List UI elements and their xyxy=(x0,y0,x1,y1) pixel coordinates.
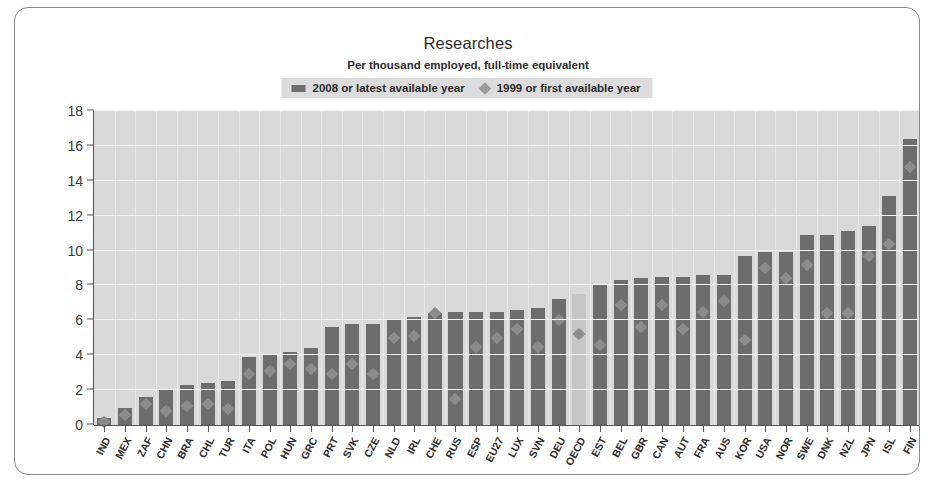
bar-nld[interactable] xyxy=(387,320,401,425)
bar-prt[interactable] xyxy=(325,327,339,425)
x-label-wrap: JPN xyxy=(858,432,879,475)
bar-jpn[interactable] xyxy=(862,226,876,425)
x-axis-label-text: PRT xyxy=(320,435,340,459)
diamond-marker-aut[interactable] xyxy=(676,323,689,336)
diamond-marker-kor[interactable] xyxy=(738,333,751,346)
bar-slot xyxy=(734,111,755,425)
bar-deu[interactable] xyxy=(552,299,566,425)
bar-oecd[interactable] xyxy=(572,294,586,425)
bar-swe[interactable] xyxy=(800,235,814,425)
bar-lux[interactable] xyxy=(510,310,524,425)
diamond-marker-nor[interactable] xyxy=(780,272,793,285)
diamond-marker-bel[interactable] xyxy=(614,298,627,311)
diamond-marker-jpn[interactable] xyxy=(862,249,875,262)
bar-usa[interactable] xyxy=(758,252,772,425)
diamond-marker-pol[interactable] xyxy=(263,365,276,378)
bar-fra[interactable] xyxy=(696,275,710,425)
chart-legend: 2008 or latest available year 1999 or fi… xyxy=(282,78,653,98)
bar-rus[interactable] xyxy=(448,312,462,425)
bar-kor[interactable] xyxy=(738,256,752,425)
x-axis-label-text: GBR xyxy=(628,435,650,461)
bar-slot xyxy=(363,111,384,425)
diamond-marker-bra[interactable] xyxy=(181,399,194,412)
diamond-marker-isl[interactable] xyxy=(883,237,896,250)
diamond-marker-svk[interactable] xyxy=(346,358,359,371)
gridline xyxy=(94,110,920,111)
bar-irl[interactable] xyxy=(407,317,421,425)
bar-swatch-icon xyxy=(292,85,306,92)
bar-ita[interactable] xyxy=(242,357,256,425)
diamond-marker-can[interactable] xyxy=(656,298,669,311)
diamond-marker-svn[interactable] xyxy=(532,340,545,353)
x-label-wrap: BRA xyxy=(177,432,198,475)
x-axis-label-text: SWE xyxy=(793,435,815,462)
diamond-marker-nzl[interactable] xyxy=(842,307,855,320)
y-axis-tick-mark xyxy=(87,110,94,111)
diamond-marker-eu27[interactable] xyxy=(490,331,503,344)
bar-eu27[interactable] xyxy=(490,312,504,425)
diamond-marker-zaf[interactable] xyxy=(139,398,152,411)
x-label-wrap: USA xyxy=(755,432,776,475)
bar-slot xyxy=(321,111,342,425)
bar-cze[interactable] xyxy=(366,324,380,425)
diamond-marker-chn[interactable] xyxy=(160,405,173,418)
diamond-marker-aus[interactable] xyxy=(718,295,731,308)
diamond-marker-fra[interactable] xyxy=(697,305,710,318)
bar-dnk[interactable] xyxy=(820,235,834,425)
bar-slot xyxy=(817,111,838,425)
x-axis-label-text: TUR xyxy=(216,435,237,460)
bar-grc[interactable] xyxy=(304,348,318,425)
y-axis-tick-mark xyxy=(87,389,94,390)
diamond-marker-mex[interactable] xyxy=(119,408,132,421)
diamond-marker-deu[interactable] xyxy=(552,314,565,327)
x-label-wrap: CAN xyxy=(652,432,673,475)
diamond-marker-cze[interactable] xyxy=(366,368,379,381)
diamond-marker-tur[interactable] xyxy=(222,403,235,416)
diamond-marker-prt[interactable] xyxy=(325,368,338,381)
diamond-marker-rus[interactable] xyxy=(449,392,462,405)
x-label-wrap: NZL xyxy=(838,432,859,475)
bar-nzl[interactable] xyxy=(841,231,855,425)
bar-tur[interactable] xyxy=(221,381,235,425)
y-axis-tick-mark xyxy=(87,249,94,250)
diamond-marker-dnk[interactable] xyxy=(821,307,834,320)
diamond-marker-esp[interactable] xyxy=(470,340,483,353)
diamond-marker-che[interactable] xyxy=(428,307,441,320)
bar-aut[interactable] xyxy=(676,277,690,425)
bar-aus[interactable] xyxy=(717,275,731,425)
diamond-marker-oecd[interactable] xyxy=(573,328,586,341)
diamond-marker-est[interactable] xyxy=(594,338,607,351)
bar-slot xyxy=(714,111,735,425)
x-label-wrap: GBR xyxy=(631,432,652,475)
bar-fin[interactable] xyxy=(903,139,917,425)
bar-can[interactable] xyxy=(655,277,669,425)
bar-gbr[interactable] xyxy=(634,278,648,425)
y-axis-tick-mark xyxy=(87,319,94,320)
x-axis-label-text: EU27 xyxy=(482,435,505,464)
diamond-marker-usa[interactable] xyxy=(759,262,772,275)
diamond-marker-irl[interactable] xyxy=(408,330,421,343)
diamond-marker-grc[interactable] xyxy=(305,363,318,376)
diamond-marker-nld[interactable] xyxy=(387,331,400,344)
bar-nor[interactable] xyxy=(779,252,793,425)
diamond-marker-swe[interactable] xyxy=(800,258,813,271)
legend-label-diamonds: 1999 or first available year xyxy=(497,82,641,94)
bar-slot xyxy=(631,111,652,425)
bar-esp[interactable] xyxy=(469,312,483,425)
diamond-marker-chl[interactable] xyxy=(201,398,214,411)
diamond-marker-lux[interactable] xyxy=(511,323,524,336)
x-label-wrap: NOR xyxy=(776,432,797,475)
diamond-marker-fin[interactable] xyxy=(904,160,917,173)
diamond-marker-ita[interactable] xyxy=(243,368,256,381)
bar-che[interactable] xyxy=(428,313,442,425)
x-label-wrap: FIN xyxy=(900,432,920,475)
bar-bel[interactable] xyxy=(614,280,628,425)
bar-isl[interactable] xyxy=(882,196,896,425)
diamond-marker-hun[interactable] xyxy=(284,358,297,371)
y-axis-tick-label: 14 xyxy=(67,173,83,189)
x-axis-label-text: HUN xyxy=(278,435,299,461)
bar-svk[interactable] xyxy=(345,324,359,425)
bar-svn[interactable] xyxy=(531,308,545,425)
diamond-marker-gbr[interactable] xyxy=(635,321,648,334)
x-axis-label-text: BEL xyxy=(609,435,629,459)
